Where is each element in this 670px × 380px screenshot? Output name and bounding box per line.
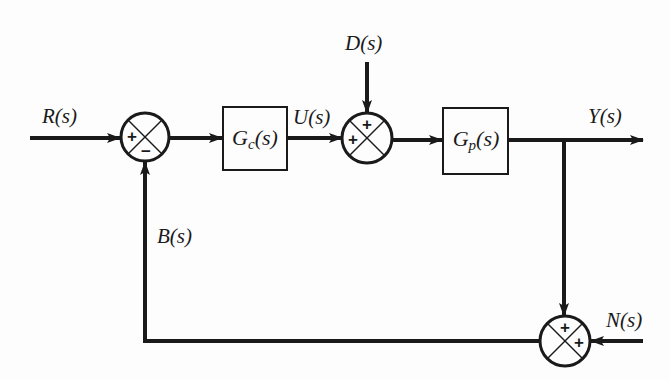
error-sum-minus-sign: − [141, 143, 151, 160]
controller-label: Gc(s) [232, 127, 278, 152]
feedback-path-line [145, 162, 540, 341]
plant-label: Gp(s) [453, 128, 500, 153]
controller-name: G [232, 125, 248, 150]
controller-subscript: c [248, 136, 255, 152]
reference-label: R(s) [42, 106, 77, 127]
plant-name: G [453, 126, 469, 151]
disturbance-sum-left-plus-sign: + [348, 131, 358, 148]
disturbance-sum-top-plus-sign: + [362, 116, 372, 133]
disturbance-label: D(s) [345, 33, 382, 54]
noise-label: N(s) [606, 310, 642, 331]
plant-arg: (s) [476, 126, 499, 151]
noise-sum-top-plus-sign: + [560, 319, 570, 336]
controller-arg: (s) [255, 125, 278, 150]
block-diagram: R(s) U(s) D(s) Y(s) B(s) N(s) Gc(s) Gp(s… [0, 0, 670, 380]
control-signal-label: U(s) [293, 107, 330, 128]
feedback-label: B(s) [157, 226, 192, 247]
noise-sum-right-plus-sign: + [574, 334, 584, 351]
error-sum-plus-sign: + [127, 128, 137, 145]
output-label: Y(s) [588, 106, 622, 127]
